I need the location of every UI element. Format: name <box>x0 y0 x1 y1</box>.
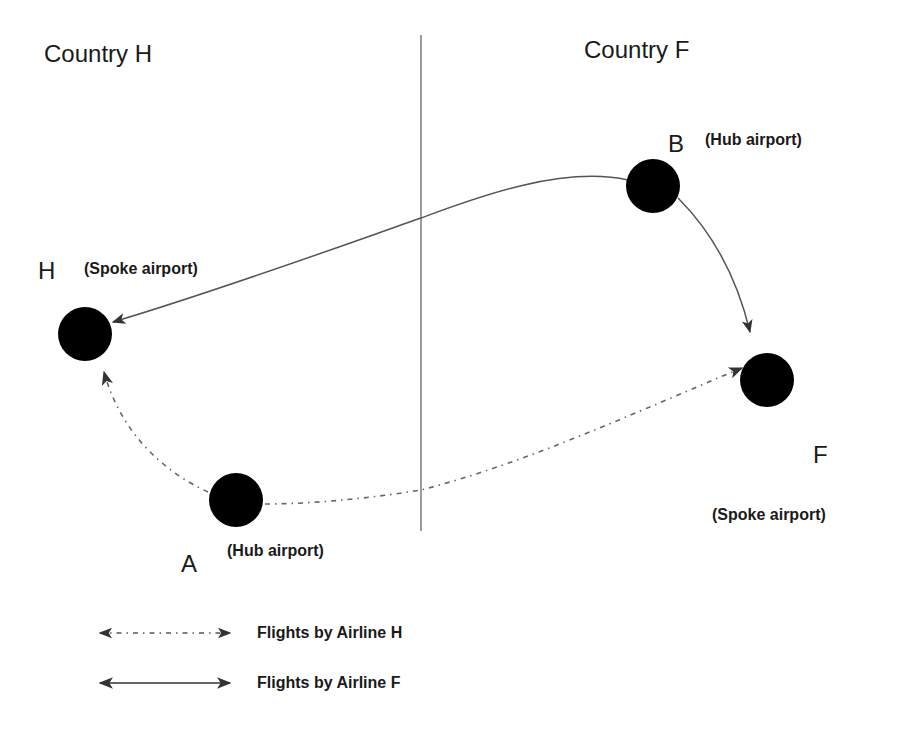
airport-f-letter: F <box>813 443 828 467</box>
route-diagram <box>0 0 904 737</box>
airport-a-role: (Hub airport) <box>227 543 324 559</box>
airport-a-letter: A <box>181 552 197 576</box>
country-h-label: Country H <box>44 42 152 66</box>
route-a-to-f-airline-h <box>265 368 742 504</box>
airport-node-h <box>58 307 112 361</box>
airport-h-letter: H <box>38 259 55 283</box>
legend-label-airline-f: Flights by Airline F <box>257 675 400 691</box>
airport-node-a <box>209 473 263 527</box>
airport-f-role: (Spoke airport) <box>712 507 826 523</box>
airport-b-role: (Hub airport) <box>705 132 802 148</box>
airport-node-b <box>626 159 680 213</box>
airport-h-role: (Spoke airport) <box>84 261 198 277</box>
airport-b-letter: B <box>668 132 684 156</box>
route-a-to-h-airline-h <box>104 372 208 492</box>
route-b-to-f-airline-f <box>678 198 750 332</box>
route-b-to-h-airline-f <box>113 176 628 322</box>
airport-node-f <box>740 353 794 407</box>
country-f-label: Country F <box>584 38 689 62</box>
legend-label-airline-h: Flights by Airline H <box>257 625 402 641</box>
